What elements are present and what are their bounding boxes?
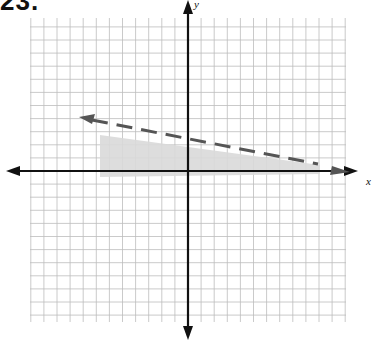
- coordinate-plane: x y: [0, 0, 375, 343]
- y-axis-label: y: [193, 0, 199, 10]
- x-axis-left-arrow-icon: [6, 166, 20, 176]
- y-axis-top-arrow-icon: [183, 0, 193, 14]
- x-axis-label: x: [365, 175, 371, 187]
- y-axis-bottom-arrow-icon: [183, 326, 193, 340]
